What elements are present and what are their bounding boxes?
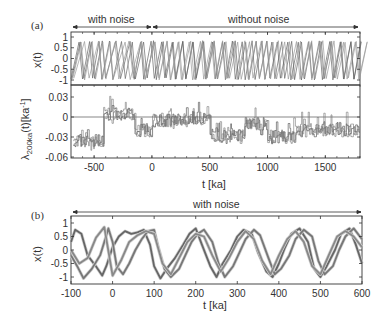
y-tick-label: 0.5 bbox=[54, 42, 68, 53]
x-tick-label: 200 bbox=[187, 288, 204, 299]
x-tick-label: 1000 bbox=[256, 162, 279, 173]
lambda-series bbox=[73, 96, 360, 150]
subplot-b-xt: 10.50-0.5-1 -1000100200300400500600 bbox=[51, 216, 371, 299]
noise-range-arrow-b bbox=[73, 211, 361, 214]
x-tick-label: 100 bbox=[146, 288, 163, 299]
lambda-subscript: 200ka bbox=[25, 132, 34, 154]
y-tick-label: -1 bbox=[59, 272, 68, 283]
y-tick-label: -0.03 bbox=[45, 132, 68, 143]
x-tick-label: 1500 bbox=[314, 162, 337, 173]
y-tick-label: -0.06 bbox=[45, 152, 68, 163]
x-axis-label-a: t [ka] bbox=[202, 178, 226, 190]
x-tick-label: -100 bbox=[61, 288, 81, 299]
with-noise-label: with noise bbox=[87, 13, 135, 25]
subplot-a-xt: 10.50-0.5-1 bbox=[51, 32, 368, 86]
y-tick-label: 0 bbox=[62, 53, 68, 64]
y-tick-label: 0.03 bbox=[49, 92, 69, 103]
y-tick-label: -0.5 bbox=[51, 258, 69, 269]
lambda-units: (t)[ka bbox=[19, 107, 31, 133]
x-tick-label: 500 bbox=[201, 162, 218, 173]
without-noise-label: without noise bbox=[227, 13, 289, 25]
figure: (a) (b) with noise without noise 10.50-0… bbox=[0, 0, 385, 328]
x-tick-label: 500 bbox=[312, 288, 329, 299]
y-tick-label: 1 bbox=[62, 32, 68, 43]
x-ticks-a: -500050010001500 bbox=[83, 32, 360, 173]
x-axis-label-b: t [ka] bbox=[203, 299, 227, 311]
lambda-close: ] bbox=[19, 98, 31, 101]
panel-a-label: (a) bbox=[31, 19, 44, 32]
x-tick-label: 300 bbox=[229, 288, 246, 299]
with-noise-label-b: with noise bbox=[192, 198, 240, 210]
x-tick-label: 400 bbox=[271, 288, 288, 299]
y-axis-label-lambda: λ200ka(t)[ka-1] bbox=[19, 98, 34, 160]
y-tick-label: 0 bbox=[62, 245, 68, 256]
panel-b-label: (b) bbox=[31, 209, 44, 222]
y-tick-label: -0.5 bbox=[51, 64, 69, 75]
xt-series-b bbox=[71, 227, 362, 278]
y-tick-label: 1 bbox=[62, 218, 68, 229]
xt-series-a bbox=[71, 41, 367, 80]
x-tick-label: 0 bbox=[110, 288, 116, 299]
y-axis-label-xt-b: x(t) bbox=[31, 246, 43, 262]
x-tick-label: 600 bbox=[354, 288, 371, 299]
x-tick-label: 0 bbox=[149, 162, 155, 173]
y-axis-label-xt-a: x(t) bbox=[31, 52, 43, 68]
y-ticks-a-bottom: 0.030-0.03-0.06 bbox=[45, 92, 360, 163]
y-tick-label: 0 bbox=[62, 112, 68, 123]
x-tick-label: -500 bbox=[84, 162, 104, 173]
noise-range-arrows-a bbox=[73, 26, 358, 29]
y-tick-label: 0.5 bbox=[54, 231, 68, 242]
y-tick-label: -1 bbox=[59, 75, 68, 86]
